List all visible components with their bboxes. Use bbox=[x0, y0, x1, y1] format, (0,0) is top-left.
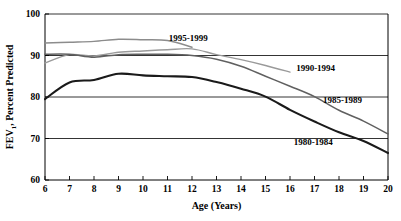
x-tick-label-19: 19 bbox=[359, 184, 369, 194]
chart-figure: 67891011121314151617181920 60708090100 1… bbox=[0, 0, 401, 221]
series-label-1995-1999: 1995-1999 bbox=[169, 33, 208, 43]
x-tick-label-7: 7 bbox=[67, 184, 72, 194]
x-tick-label-17: 17 bbox=[310, 184, 320, 194]
x-tick-label-13: 13 bbox=[212, 184, 222, 194]
y-tick-label-60: 60 bbox=[31, 175, 41, 185]
series-label-1985-1989: 1985-1989 bbox=[323, 95, 362, 105]
y-tick-label-100: 100 bbox=[26, 9, 41, 19]
fev-percent-predicted-line-chart: 67891011121314151617181920 60708090100 1… bbox=[0, 0, 401, 221]
x-tick-label-15: 15 bbox=[261, 184, 271, 194]
y-tick-label-80: 80 bbox=[31, 92, 41, 102]
x-tick-label-20: 20 bbox=[383, 184, 393, 194]
series-label-1980-1984: 1980-1984 bbox=[294, 137, 333, 147]
x-tick-label-9: 9 bbox=[116, 184, 121, 194]
x-tick-label-18: 18 bbox=[334, 184, 344, 194]
x-tick-label-14: 14 bbox=[236, 184, 246, 194]
x-tick-label-8: 8 bbox=[92, 184, 97, 194]
x-tick-label-12: 12 bbox=[187, 184, 197, 194]
x-axis-title: Age (Years) bbox=[192, 200, 242, 212]
x-tick-label-6: 6 bbox=[43, 184, 48, 194]
y-tick-label-90: 90 bbox=[31, 51, 41, 61]
y-tick-label-70: 70 bbox=[31, 134, 41, 144]
series-label-1990-1994: 1990-1994 bbox=[296, 63, 335, 73]
x-tick-label-16: 16 bbox=[285, 184, 295, 194]
x-tick-label-10: 10 bbox=[138, 184, 148, 194]
x-axis-tick-labels: 67891011121314151617181920 bbox=[43, 184, 393, 194]
x-tick-label-11: 11 bbox=[163, 184, 172, 194]
